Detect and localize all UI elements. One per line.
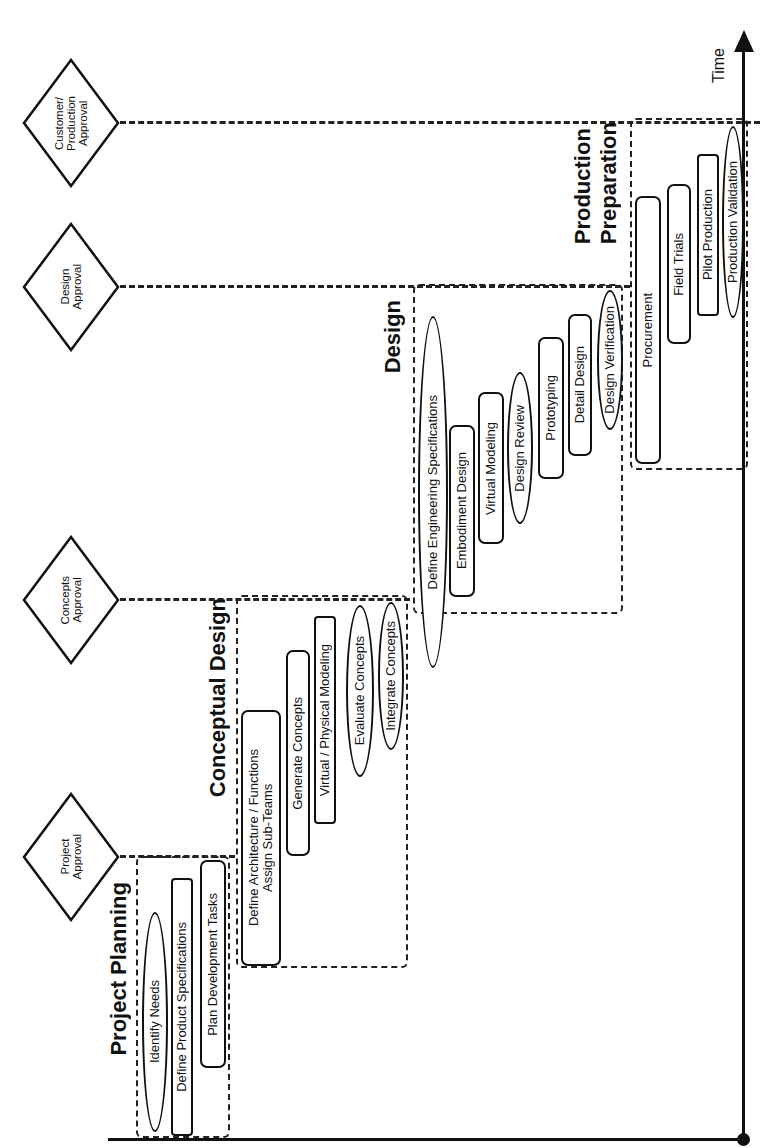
task-virtual-modeling: Virtual Modeling <box>478 392 504 544</box>
baseline-axis <box>108 1138 744 1141</box>
gate-label: Customer/ProductionApproval <box>53 96 89 151</box>
phase-title-project-planning: Project Planning <box>106 882 132 1056</box>
gate-label: ProjectApproval <box>59 834 83 879</box>
gate-design-approval: DesignApproval <box>22 222 120 352</box>
phase-title-design: Design <box>380 300 406 373</box>
time-axis-arrow-icon <box>733 30 755 54</box>
task-pilot-production: Pilot Production <box>697 154 719 316</box>
task-generate-concepts: Generate Concepts <box>286 650 310 856</box>
task-define-engineering-specifications: Define Engineering Specifications <box>418 316 448 668</box>
task-design-verification: Design Verification <box>597 290 623 430</box>
gate-concepts-approval: ConceptsApproval <box>22 535 120 665</box>
task-evaluate-concepts: Evaluate Concepts <box>346 605 374 777</box>
task-define-product-specifications: Define Product Specifications <box>171 878 193 1136</box>
task-plan-development-tasks: Plan Development Tasks <box>200 860 226 1068</box>
axis-origin-dot <box>737 1133 750 1146</box>
phase-title-conceptual-design: Conceptual Design <box>205 598 231 797</box>
task-design-review: Design Review <box>507 372 533 524</box>
phase-title-production-preparation: ProductionPreparation <box>570 122 622 244</box>
gate-label: ConceptsApproval <box>59 576 83 625</box>
task-integrate-concepts: Integrate Concepts <box>378 602 404 750</box>
time-axis-label: Time <box>712 48 726 83</box>
task-procurement: Procurement <box>635 196 661 464</box>
task-identify-needs: Identify Needs <box>142 912 168 1132</box>
task-field-trials: Field Trials <box>667 184 691 344</box>
gate-label: DesignApproval <box>59 264 83 309</box>
task-production-validation: Production Validation <box>722 126 744 318</box>
gate-customer-production-approval: Customer/ProductionApproval <box>22 58 120 188</box>
task-prototyping: Prototyping <box>538 337 564 479</box>
task-detail-design: Detail Design <box>568 314 592 456</box>
task-virtual-physical-modeling: Virtual / Physical Modeling <box>314 616 336 824</box>
task-embodiment-design: Embodiment Design <box>449 425 475 597</box>
task-define-architecture: Define Architecture / FunctionsAssign Su… <box>241 710 281 966</box>
